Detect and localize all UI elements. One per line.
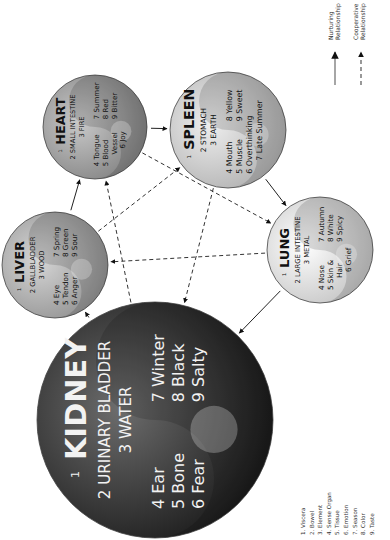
kidney-num-1: 1 (69, 471, 82, 478)
liver-emotion: 6 Anger (70, 277, 79, 305)
key-item-5: 5. Tissue (334, 510, 340, 535)
lung-emotion: 6 Grief (344, 247, 353, 272)
cooperative-arrow-kidney-to-heart (106, 181, 131, 303)
organ-circles-layer: 1HEART2 SMALL INTESTINE3 FIRE4 Tongue5 B… (2, 72, 373, 538)
liver-viscera: LIVER (12, 241, 27, 283)
key-item-4: 4. Sense Organ (326, 492, 333, 535)
numbered-key: 1. Viscera2. Bowel3. Element4. Sense Org… (300, 492, 375, 535)
kidney-taste: 9 Salty (189, 347, 208, 402)
key-item-7: 7. Season (352, 507, 358, 535)
lung-color: 8 White (326, 214, 335, 242)
liver-color: 8 Green (61, 228, 70, 257)
lung-num-1: 1 (281, 273, 287, 276)
nurturing-arrow-spleen-to-lung (266, 179, 286, 205)
nurturing-arrow-liver-to-heart (71, 180, 80, 210)
lung-season: 7 Autumn (317, 207, 326, 242)
liver-element: 3 WOOD (38, 250, 46, 279)
liver-tissue: 5 Tendon (61, 272, 70, 305)
key-item-6: 6. Emotion (343, 504, 349, 535)
key-item-9: 9. Taste (369, 513, 375, 535)
heart-sense-organ: 4 Tongue (92, 134, 101, 166)
spleen-emotion: 6 Overthinking (245, 115, 254, 173)
spleen-num-1: 1 (186, 155, 192, 158)
heart-emotion: 6 Joy (118, 131, 127, 148)
lung-taste: 9 Spicy (335, 215, 344, 242)
relationship-legend: Nurturing Relationship Cooperative Relat… (327, 3, 367, 85)
lung-tissue: 5 Skin & (326, 260, 335, 290)
heart-taste: 9 Bitter (110, 93, 119, 119)
lung-tissue-line2: Hair (335, 263, 344, 278)
lung-viscera: LUNG (277, 228, 292, 268)
key-item-1: 1. Viscera (300, 507, 306, 535)
spleen-tissue: 5 Muscle (235, 139, 244, 174)
key-item-3: 3. Element (317, 504, 323, 535)
key-item-2: 2. Bowel (309, 511, 315, 535)
kidney-sense-organ: 4 Ear (149, 467, 168, 509)
heart-num-1: 1 (57, 149, 63, 152)
spleen-element: 3 EARTH (209, 114, 218, 146)
organ-circle-lung: 1LUNG2 LARGE INTESTINE3 METAL4 Nose5 Ski… (267, 197, 373, 303)
diagram-canvas: 1HEART2 SMALL INTESTINE3 FIRE4 Tongue5 B… (0, 0, 390, 540)
organ-circle-liver: 1LIVER2 GALLBLADDER3 WOOD4 Eye5 Tendon6 … (2, 212, 108, 318)
spleen-season: 7 Late Summer (255, 99, 264, 160)
nurturing-arrow-kidney-to-liver (85, 312, 89, 317)
spleen-color: 8 Yellow (225, 89, 234, 121)
organ-circle-spleen: 1SPLEEN2 STOMACH3 EARTH4 Mouth5 Muscle6 … (170, 72, 286, 188)
spleen-viscera: SPLEEN (181, 89, 197, 150)
heart-tissue-line2: Vessel (110, 132, 119, 154)
kidney-viscera: KIDNEY (59, 337, 93, 460)
cooperative-arrow-liver-to-spleen (98, 168, 180, 232)
liver-bowel: 2 GALLBLADDER (29, 236, 37, 293)
spleen-sense-organ: 4 Mouth (225, 142, 234, 174)
heart-color: 8 Red (101, 99, 110, 119)
liver-yin-dot (71, 259, 92, 280)
kidney-color: 8 Black (169, 343, 188, 402)
heart-season: 7 Summer (92, 82, 101, 119)
liver-taste: 9 Sour (70, 234, 79, 257)
cooperative-arrow-spleen-to-kidney (185, 188, 214, 302)
kidney-yin-dot (190, 406, 237, 453)
kidney-bowel: 2 URINARY BLADDER (96, 340, 114, 499)
kidney-tissue: 5 Bone (169, 453, 188, 509)
legend-nurturing-line2: Relationship (334, 3, 342, 40)
nurturing-arrow-lung-to-kidney (239, 291, 280, 333)
kidney-emotion: 6 Fear (189, 459, 208, 509)
liver-season: 7 Spring (52, 227, 61, 257)
organ-circle-heart: 1HEART2 SMALL INTESTINE3 FIRE4 Tongue5 B… (43, 75, 147, 179)
kidney-season: 7 Winter (149, 334, 168, 402)
lung-sense-organ: 4 Nose (317, 265, 326, 290)
heart-element: 3 FIRE (78, 117, 86, 138)
legend-cooperative-line2: Relationship (359, 3, 367, 40)
liver-num-1: 1 (16, 288, 22, 291)
lung-bowel: 2 LARGE INTESTINE (294, 217, 302, 284)
key-item-8: 8. Color (360, 513, 366, 535)
heart-tissue: 5 Blood (101, 140, 110, 167)
liver-sense-organ: 4 Eye (52, 284, 61, 305)
cooperative-arrow-lung-to-liver (111, 253, 265, 262)
lung-element: 3 METAL (303, 235, 311, 264)
spleen-taste: 9 Sweet (235, 90, 244, 122)
heart-bowel: 2 SMALL INTESTINE (69, 94, 77, 159)
kidney-element: 3 WATER (117, 386, 135, 454)
five-element-diagram: 1HEART2 SMALL INTESTINE3 FIRE4 Tongue5 B… (0, 0, 390, 540)
heart-viscera: HEART (53, 97, 68, 144)
organ-circle-kidney: 1KIDNEY2 URINARY BLADDER3 WATER4 Ear5 Bo… (37, 302, 273, 538)
spleen-bowel: 2 STOMACH (199, 108, 208, 152)
